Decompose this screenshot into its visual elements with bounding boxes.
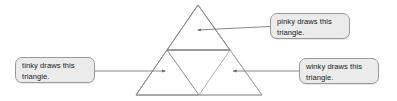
callout-pinky-line1: pinky draws this bbox=[277, 17, 343, 28]
callout-winky[interactable]: winky draws this triangle. bbox=[299, 58, 379, 84]
callout-winky-line2: triangle. bbox=[306, 73, 372, 84]
callout-tinky-line2: triangle. bbox=[22, 72, 88, 83]
callout-winky-line1: winky draws this bbox=[306, 62, 372, 73]
pinky-leader-line bbox=[198, 27, 271, 31]
sub-triangle-bottom-left bbox=[136, 50, 199, 95]
sub-triangle-bottom-right bbox=[199, 50, 262, 95]
diagram-canvas: pinky draws this triangle. tinky draws t… bbox=[0, 0, 397, 101]
callout-pinky-line2: triangle. bbox=[277, 28, 343, 39]
sub-triangle-top bbox=[167, 5, 230, 50]
callout-tinky-line1: tinky draws this bbox=[22, 61, 88, 72]
callout-tinky[interactable]: tinky draws this triangle. bbox=[15, 57, 95, 83]
callout-pinky[interactable]: pinky draws this triangle. bbox=[270, 13, 350, 39]
